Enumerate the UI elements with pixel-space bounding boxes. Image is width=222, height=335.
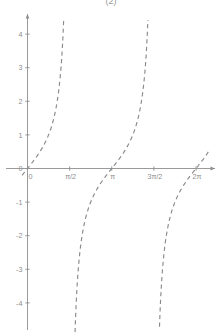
plot-canvas: 43210-1-2-3-4 0π/2π3π/22π — [0, 0, 222, 335]
y-tick-label: 4 — [19, 30, 23, 39]
tangent-branch-1 — [22, 19, 64, 176]
y-tick-label: 0 — [19, 164, 23, 173]
x-tick-label: π — [110, 172, 115, 181]
y-tick-label: 2 — [19, 97, 23, 106]
x-tick-label: 3π/2 — [147, 172, 162, 181]
y-tick-label: -2 — [16, 231, 22, 240]
x-axis-arrow-icon — [211, 167, 216, 171]
y-tick-label: 3 — [19, 63, 23, 72]
tangent-branch-3 — [159, 150, 209, 326]
x-tick-label: 0 — [29, 172, 33, 181]
curve-group — [22, 19, 209, 332]
y-tick-label: -1 — [16, 198, 22, 207]
y-axis-arrow-icon — [26, 14, 30, 19]
x-tick-label: 2π — [193, 172, 202, 181]
y-tick-label: 1 — [19, 131, 23, 140]
y-tick-label: -4 — [16, 299, 22, 308]
x-tick-label: π/2 — [65, 172, 76, 181]
y-tick-label: -3 — [16, 265, 22, 274]
tangent-function-figure: (2) 43210-1-2-3-4 0π/2π3π/22π — [0, 0, 222, 335]
